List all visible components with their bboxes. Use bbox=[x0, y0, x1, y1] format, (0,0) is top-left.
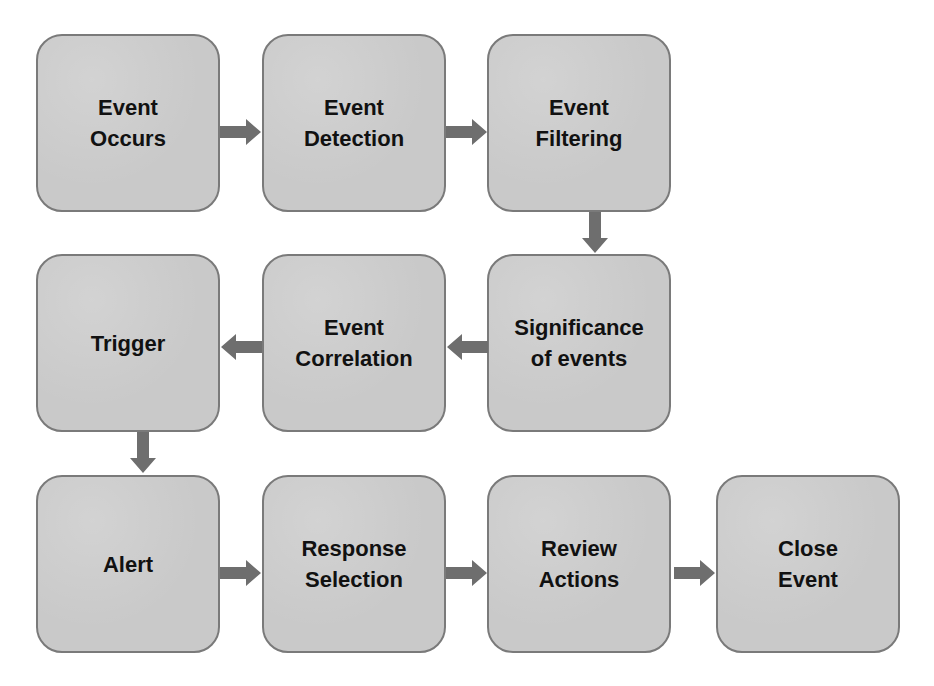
node-label: Event Filtering bbox=[536, 92, 623, 154]
node-label: Response Selection bbox=[301, 533, 406, 595]
arrow-left-icon bbox=[220, 332, 262, 362]
node-label: Significance of events bbox=[514, 312, 644, 374]
arrow-right-icon bbox=[220, 558, 262, 588]
node-trigger: Trigger bbox=[36, 254, 220, 432]
node-event-filtering: Event Filtering bbox=[487, 34, 671, 212]
arrow-right-icon bbox=[674, 558, 716, 588]
node-label: Close Event bbox=[778, 533, 838, 595]
node-alert: Alert bbox=[36, 475, 220, 653]
node-close-event: Close Event bbox=[716, 475, 900, 653]
arrow-right-icon bbox=[446, 558, 488, 588]
node-label: Review Actions bbox=[539, 533, 620, 595]
arrow-down-icon bbox=[580, 212, 610, 254]
node-event-detection: Event Detection bbox=[262, 34, 446, 212]
node-label: Alert bbox=[103, 549, 153, 580]
node-event-occurs: Event Occurs bbox=[36, 34, 220, 212]
node-significance-of-events: Significance of events bbox=[487, 254, 671, 432]
node-label: Event Detection bbox=[304, 92, 404, 154]
node-label: Event Correlation bbox=[295, 312, 412, 374]
arrow-left-icon bbox=[446, 332, 488, 362]
node-review-actions: Review Actions bbox=[487, 475, 671, 653]
arrow-right-icon bbox=[220, 117, 262, 147]
arrow-down-icon bbox=[128, 432, 158, 474]
node-label: Trigger bbox=[91, 328, 166, 359]
node-label: Event Occurs bbox=[90, 92, 166, 154]
node-response-selection: Response Selection bbox=[262, 475, 446, 653]
node-event-correlation: Event Correlation bbox=[262, 254, 446, 432]
arrow-right-icon bbox=[446, 117, 488, 147]
